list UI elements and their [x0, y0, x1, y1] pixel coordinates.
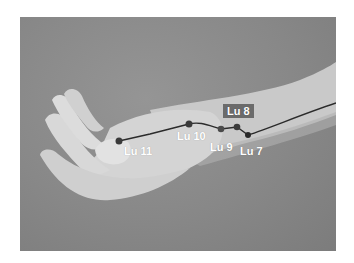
label-lu11: Lu 11: [124, 145, 152, 157]
point-lu9: [218, 126, 225, 133]
label-lu7: Lu 7: [240, 145, 263, 157]
point-lu10: [186, 121, 193, 128]
label-lu10: Lu 10: [177, 130, 206, 142]
point-lu11: [116, 138, 123, 145]
point-lu8: [234, 124, 241, 131]
acupuncture-photo: Lu 11 Lu 10 Lu 9 Lu 8 Lu 7: [20, 17, 336, 251]
label-lu9: Lu 9: [210, 141, 233, 153]
label-lu8: Lu 8: [223, 104, 254, 118]
point-lu7: [245, 132, 251, 138]
